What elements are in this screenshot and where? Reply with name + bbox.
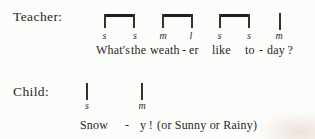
note-stem <box>104 14 106 28</box>
solfa-letter: m <box>159 31 166 41</box>
beam-bar <box>219 14 250 17</box>
lyric-token: Snow <box>80 119 108 132</box>
beam-group-3 <box>219 14 250 28</box>
lyric-token: er <box>189 44 199 57</box>
solfa-letter: s <box>103 31 107 41</box>
lyric-token: - <box>125 119 129 132</box>
note-stem <box>191 14 193 28</box>
beam-bar <box>162 14 193 17</box>
lyric-token: (or Sunny or Rainy) <box>157 119 257 132</box>
note-stem <box>248 14 250 28</box>
teacher-label: Teacher: <box>13 9 62 25</box>
solfa-letter: s <box>247 31 251 41</box>
lyric-token: What's <box>96 44 130 57</box>
beam-group-1 <box>104 14 135 28</box>
lyric-token: - <box>259 44 263 57</box>
lyric-token: day ? <box>267 44 293 57</box>
beam-group-2 <box>162 14 193 28</box>
lyric-token: weath <box>150 44 180 57</box>
lyric-token: like <box>212 44 231 57</box>
solfa-letter: s <box>133 31 137 41</box>
lyric-token: - <box>182 44 186 57</box>
solfa-letter: s <box>218 31 222 41</box>
lyric-token: the <box>131 44 146 57</box>
solfa-letter: s <box>85 101 89 111</box>
note-stem <box>133 14 135 28</box>
lyric-token: y ! <box>140 119 153 132</box>
solfa-letter: m <box>138 101 145 111</box>
beam-bar <box>104 14 135 17</box>
solfa-letter: l <box>190 31 193 41</box>
note-stem-single <box>141 83 143 100</box>
note-stem <box>219 14 221 28</box>
note-stem <box>162 14 164 28</box>
book-page: Teacher: s s m l s s m What's the weath … <box>0 0 315 139</box>
solfa-letter: m <box>275 31 282 41</box>
child-label: Child: <box>13 84 49 100</box>
note-stem-single <box>279 13 281 30</box>
note-stem-single <box>86 83 88 100</box>
lyric-token: to <box>245 44 255 57</box>
